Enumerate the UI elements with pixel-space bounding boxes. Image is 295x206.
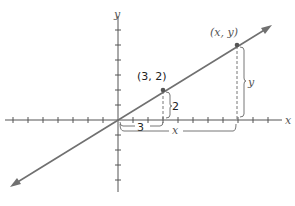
point-x-y	[235, 43, 240, 48]
x-axis-label: x	[285, 114, 292, 127]
small-run-label: 3	[137, 121, 144, 134]
proportional-line	[16, 29, 266, 183]
diagram-canvas: x y (3, 2) 2 3 (x, y) y x	[0, 0, 295, 206]
large-rise-label: y	[247, 76, 255, 89]
large-run-label: x	[172, 124, 179, 137]
point-3-2-label: (3, 2)	[137, 70, 167, 83]
y-axis-label: y	[113, 8, 121, 21]
arrow-head-down-left-icon	[10, 178, 21, 187]
arrow-head-up-right-icon	[261, 25, 272, 34]
point-3-2	[161, 88, 166, 93]
small-rise-label: 2	[172, 100, 179, 113]
large-rise-bracket	[240, 47, 246, 117]
point-x-y-label: (x, y)	[210, 26, 238, 39]
